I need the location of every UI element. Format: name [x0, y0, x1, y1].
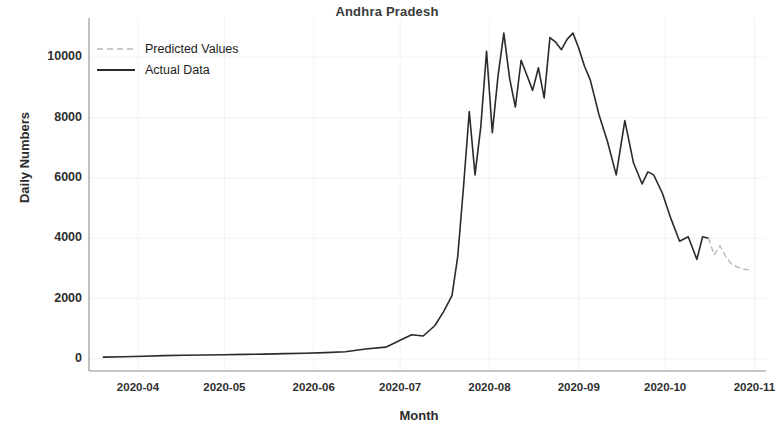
x-tick-label: 2020-06	[269, 381, 359, 393]
x-tick-label: 2020-05	[179, 381, 269, 393]
legend-item-predicted: Predicted Values	[96, 38, 296, 59]
x-tick-label: 2020-11	[709, 381, 780, 393]
y-tick-label: 6000	[12, 170, 82, 184]
chart-legend: Predicted Values Actual Data	[96, 38, 296, 80]
x-tick-label: 2020-09	[534, 381, 624, 393]
legend-swatch-dashed-icon	[96, 43, 136, 55]
data-series-group	[103, 33, 748, 357]
legend-item-actual: Actual Data	[96, 59, 296, 80]
legend-label-actual: Actual Data	[145, 63, 210, 77]
series-line-predicted-values	[708, 238, 748, 270]
y-tick-label: 2000	[12, 291, 82, 305]
y-tick-label: 0	[12, 351, 82, 365]
x-tick-label: 2020-08	[444, 381, 534, 393]
y-tick-label: 4000	[12, 230, 82, 244]
legend-label-predicted: Predicted Values	[145, 42, 239, 56]
legend-swatch-solid-icon	[96, 64, 136, 76]
series-line-actual-data	[103, 33, 708, 357]
y-tick-label: 10000	[12, 49, 82, 63]
x-tick-label: 2020-10	[620, 381, 710, 393]
y-tick-label: 8000	[12, 110, 82, 124]
x-tick-label: 2020-04	[93, 381, 183, 393]
x-tick-label: 2020-07	[355, 381, 445, 393]
